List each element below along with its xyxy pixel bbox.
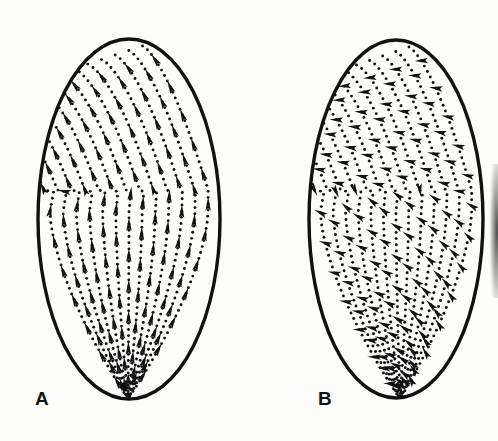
panel-a-flow-field [0, 45, 211, 400]
figure-root: A B [0, 0, 498, 441]
panel-a-diagram [0, 39, 220, 399]
panel-label-b: B [318, 389, 332, 408]
scan-edge-smudge [486, 164, 498, 298]
panel-b-flow-field [250, 46, 479, 400]
panel-label-a: A [35, 389, 49, 408]
panel-b-diagram [250, 40, 483, 400]
figure-canvas [0, 0, 498, 441]
